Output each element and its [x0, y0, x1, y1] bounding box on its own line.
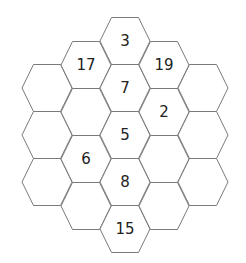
hex-cell[interactable]: [178, 159, 228, 206]
hex-outline: [178, 65, 228, 112]
hex-number: 6: [81, 150, 91, 168]
hex-board: 176375815192: [0, 0, 246, 263]
hex-number: 2: [159, 103, 169, 121]
hex-number: 17: [76, 56, 95, 74]
hex-number: 8: [120, 173, 130, 191]
hex-number: 15: [115, 220, 134, 238]
hex-number: 5: [120, 126, 130, 144]
hex-outline: [178, 112, 228, 159]
hex-cell[interactable]: [178, 65, 228, 112]
hex-number: 3: [120, 32, 130, 50]
hex-number: 7: [120, 79, 130, 97]
hex-number: 19: [154, 56, 173, 74]
hex-outline: [178, 159, 228, 206]
hex-cell[interactable]: [178, 112, 228, 159]
